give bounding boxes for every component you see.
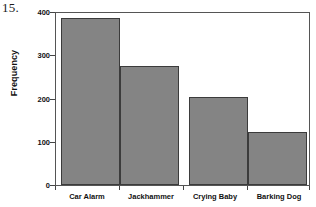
figure-page: 15. Frequency 400 300 200 100 0	[0, 0, 316, 207]
y-tick-label-400: 400	[26, 9, 50, 17]
x-tick-mark-3	[247, 186, 248, 190]
bar-chart-figure: Frequency 400 300 200 100 0 Car Al	[0, 0, 316, 207]
x-label-car-alarm: Car Alarm	[55, 192, 119, 202]
plot-area	[55, 12, 310, 186]
x-label-jackhammer: Jackhammer	[119, 192, 183, 202]
bar-car-alarm	[61, 18, 120, 185]
x-axis-tick-labels: Car Alarm Jackhammer Crying Baby Barking…	[55, 192, 310, 206]
x-label-crying-baby: Crying Baby	[183, 192, 247, 202]
bar-jackhammer	[120, 66, 179, 185]
x-label-barking-dog: Barking Dog	[247, 192, 311, 202]
bars-group	[56, 13, 309, 185]
y-tick-label-300: 300	[26, 52, 50, 60]
x-tick-mark-0	[55, 186, 56, 190]
x-tick-mark-1	[119, 186, 120, 190]
bar-crying-baby	[189, 97, 248, 185]
x-tick-mark-2	[183, 186, 184, 190]
y-axis-tick-labels: 400 300 200 100 0	[26, 0, 50, 207]
y-tick-label-0: 0	[26, 182, 50, 190]
x-tick-mark-4	[309, 186, 310, 190]
y-tick-label-200: 200	[26, 96, 50, 104]
y-tick-label-100: 100	[26, 139, 50, 147]
bar-barking-dog	[248, 132, 307, 185]
y-axis-title: Frequency	[9, 33, 19, 113]
